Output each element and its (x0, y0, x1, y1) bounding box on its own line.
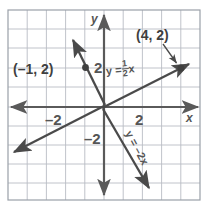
point-label-neg1-2: (–1, 2) (13, 62, 53, 76)
x-tick-label-neg2: –2 (45, 112, 62, 127)
y-axis-label: y (91, 13, 98, 25)
equation-half-x-lhs: y = (105, 64, 122, 77)
y-tick-label-2: 2 (94, 60, 102, 75)
equation-half-x-variable: x (128, 62, 135, 74)
fraction-denominator: 2 (122, 69, 130, 79)
graph-figure: y x 2 –2 –2 2 (–1, 2) (4, 2) y =12x y = … (0, 0, 215, 209)
y-tick-label-neg2: –2 (84, 131, 101, 146)
point-marker-4-2 (178, 65, 185, 72)
point-marker-neg1-2 (82, 64, 89, 71)
point-label-4-2: (4, 2) (136, 28, 169, 42)
x-axis-label: x (186, 112, 193, 124)
equation-label-half-x: y =12x (105, 60, 135, 82)
coordinate-plane-svg (0, 0, 215, 209)
x-tick-label-2: 2 (135, 112, 143, 127)
